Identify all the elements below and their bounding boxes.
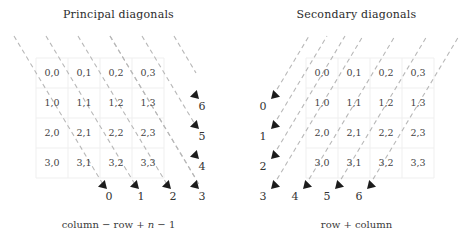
cell: 0,1 — [338, 58, 370, 86]
panel-caption-secondary: row + column — [238, 219, 475, 230]
diagonal-index-label: 0 — [256, 100, 270, 113]
caption-prefix: row + column — [321, 219, 392, 230]
diagonal-index-label: 1 — [134, 190, 148, 203]
cell: 0,3 — [132, 58, 164, 86]
cell: 0,1 — [68, 58, 100, 86]
cell: 3,0 — [36, 148, 68, 176]
caption-suffix: − 1 — [154, 219, 175, 230]
diagonal-index-label: 6 — [195, 100, 209, 113]
cell: 3,1 — [338, 148, 370, 176]
cell: 1,2 — [370, 88, 402, 116]
cell: 3,2 — [370, 148, 402, 176]
cell: 2,0 — [36, 118, 68, 146]
panel-caption-principal: column − row + n − 1 — [0, 219, 237, 230]
cell: 2,3 — [132, 118, 164, 146]
cell: 1,3 — [132, 88, 164, 116]
cell: 2,2 — [100, 118, 132, 146]
cell: 0,2 — [100, 58, 132, 86]
cell: 2,1 — [68, 118, 100, 146]
cell: 0,2 — [370, 58, 402, 86]
cell: 1,0 — [306, 88, 338, 116]
cell: 0,3 — [402, 58, 434, 86]
diagonal-index-label: 4 — [288, 190, 302, 203]
diagonal-index-label: 4 — [195, 160, 209, 173]
arrowheads-secondary-bottom — [303, 180, 376, 189]
cell: 2,3 — [402, 118, 434, 146]
cell: 3,0 — [306, 148, 338, 176]
cell: 2,0 — [306, 118, 338, 146]
cell: 2,2 — [370, 118, 402, 146]
diagonal-index-label: 6 — [352, 190, 366, 203]
arrowheads-secondary-left — [271, 90, 280, 189]
cell: 3,1 — [68, 148, 100, 176]
arrowheads-principal-bottom — [98, 180, 199, 189]
diagonal-index-label: 1 — [256, 130, 270, 143]
panel-secondary-diagonals: Secondary diagonals — [238, 0, 475, 242]
cell: 1,0 — [36, 88, 68, 116]
cell: 1,1 — [338, 88, 370, 116]
cell: 0,0 — [306, 58, 338, 86]
cell: 1,1 — [68, 88, 100, 116]
panel-principal-diagonals: Principal diagonals — [0, 0, 237, 242]
diagonal-index-label: 2 — [256, 160, 270, 173]
cell: 3,3 — [132, 148, 164, 176]
diagonal-index-label: 5 — [320, 190, 334, 203]
cell: 0,0 — [36, 58, 68, 86]
cell: 3,3 — [402, 148, 434, 176]
diagonal-index-label: 3 — [256, 190, 270, 203]
diagonal-index-label: 0 — [102, 190, 116, 203]
cell: 2,1 — [338, 118, 370, 146]
diagonal-index-label: 3 — [195, 190, 209, 203]
cell: 3,2 — [100, 148, 132, 176]
cell: 1,3 — [402, 88, 434, 116]
cell: 1,2 — [100, 88, 132, 116]
diagonal-index-label: 2 — [166, 190, 180, 203]
caption-prefix: column − row + — [62, 219, 148, 230]
diagonal-index-label: 5 — [195, 130, 209, 143]
